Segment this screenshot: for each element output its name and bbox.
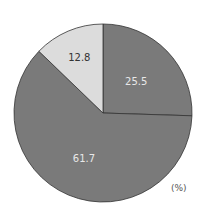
pie-slice bbox=[103, 24, 192, 116]
slice-label-12-8: 12.8 bbox=[68, 52, 90, 63]
slice-label-61-7: 61.7 bbox=[73, 153, 95, 164]
slice-label-25-5: 25.5 bbox=[125, 75, 147, 86]
unit-label: (%) bbox=[171, 183, 187, 193]
